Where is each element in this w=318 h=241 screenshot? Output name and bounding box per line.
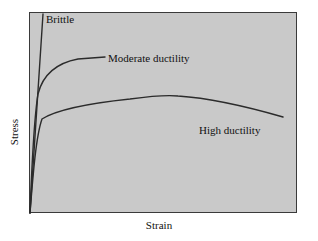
x-axis-label: Strain — [0, 220, 318, 231]
curve-label-brittle: Brittle — [46, 14, 74, 25]
y-axis-label: Stress — [9, 119, 20, 145]
stress-strain-figure: Brittle Moderate ductility High ductilit… — [0, 0, 318, 241]
plot-frame — [29, 12, 297, 213]
curve-label-moderate: Moderate ductility — [108, 53, 190, 64]
curve-label-high: High ductility — [199, 125, 260, 136]
